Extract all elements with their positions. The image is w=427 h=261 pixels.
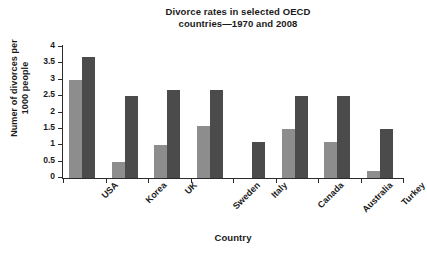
bar: [69, 80, 82, 178]
y-axis-title: Numer of divorces per 1000 people: [0, 23, 40, 153]
bar-group: [318, 47, 361, 178]
y-axis-tick-label: 2.5: [43, 89, 55, 99]
y-axis-title-line-2: 1000 people: [20, 39, 31, 137]
x-axis-category-label: USA: [99, 180, 120, 201]
bar: [252, 142, 265, 178]
bar-group: [191, 47, 234, 178]
bar: [197, 126, 210, 178]
x-axis-category-label: Italy: [269, 180, 289, 200]
y-axis-tick-label: 1: [50, 138, 55, 148]
chart-title: Divorce rates in selected OECD countries…: [118, 6, 358, 30]
bar-group: [276, 47, 319, 178]
x-axis-category-label: UK: [182, 180, 198, 196]
bar: [295, 96, 308, 178]
x-axis-title: Country: [63, 232, 403, 243]
bar: [337, 96, 350, 178]
bar-group: [148, 47, 191, 178]
y-axis-title-line-1: Numer of divorces per: [9, 39, 20, 137]
chart-title-line-2: countries—1970 and 2008: [118, 18, 358, 30]
x-axis-category-labels: USAKoreaUKSwedenItalyCanadaAustraliaTurk…: [63, 180, 403, 228]
x-axis-category-label: Australia: [360, 180, 394, 214]
x-axis-category-label: Sweden: [231, 180, 262, 211]
x-axis-category-label: Canada: [316, 180, 346, 210]
bar-group: [106, 47, 149, 178]
y-axis-tick-label: 3: [50, 73, 55, 83]
x-axis-category-label: Turkey: [400, 180, 427, 207]
bar: [82, 57, 95, 178]
bar: [154, 145, 167, 178]
x-axis-tick: [403, 178, 404, 183]
bar: [324, 142, 337, 178]
y-axis-tick-label: 1.5: [43, 122, 55, 132]
bar: [380, 129, 393, 178]
plot-area: 00.511.522.533.54: [63, 47, 403, 178]
bar: [367, 171, 380, 178]
bar: [167, 90, 180, 178]
bar: [210, 90, 223, 178]
y-axis-tick-label: 3.5: [43, 56, 55, 66]
bar-group: [233, 47, 276, 178]
bar: [112, 162, 125, 178]
y-axis-tick-label: 4: [50, 40, 55, 50]
chart-title-line-1: Divorce rates in selected OECD: [118, 6, 358, 18]
bar-group: [361, 47, 404, 178]
bar: [125, 96, 138, 178]
bar: [282, 129, 295, 178]
x-axis-category-label: Korea: [144, 180, 169, 205]
y-axis-tick-label: 0.5: [43, 155, 55, 165]
y-axis-tick-label: 0: [50, 171, 55, 181]
bar-group: [63, 47, 106, 178]
y-axis-tick-label: 2: [50, 106, 55, 116]
